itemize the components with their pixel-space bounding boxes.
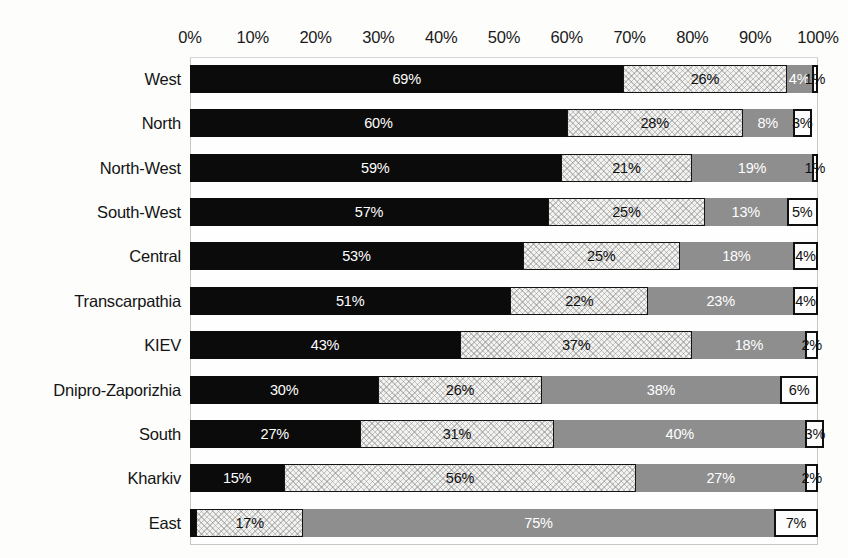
stacked-bar-chart: 0%10%20%30%40%50%60%70%80%90%100% West69… [0,0,848,558]
bar-segment-series-1[interactable]: 51% [190,287,510,315]
segment-value-label: 17% [235,515,263,531]
bar-segment-series-2[interactable]: 26% [623,65,786,93]
bar-segment-series-3[interactable]: 18% [680,242,793,270]
bar-segment-series-4[interactable]: 5% [787,198,818,226]
bar-segment-series-2[interactable]: 37% [460,331,692,359]
category-label: Kharkiv [127,456,190,500]
bar-segment-series-3[interactable]: 40% [554,420,805,448]
bar-segment-series-4[interactable]: 3% [805,420,824,448]
segment-value-label: 51% [336,293,364,309]
bar-segment-series-2[interactable]: 25% [548,198,705,226]
bar-segment-series-1[interactable]: 30% [190,376,378,404]
bar-segment-series-1[interactable]: 53% [190,242,523,270]
segment-value-label: 26% [446,382,474,398]
bar-segment-series-1[interactable]: 43% [190,331,460,359]
segment-value-label: 4% [795,293,816,309]
bar-segment-series-4[interactable]: 4% [793,242,818,270]
segment-value-label: 2% [801,470,822,486]
bar-segment-series-4[interactable]: 6% [780,376,818,404]
bar-segment-series-3[interactable]: 75% [303,509,774,537]
segment-value-label: 60% [364,115,392,131]
bar-segment-series-2[interactable]: 25% [523,242,680,270]
segment-value-label: 25% [612,204,640,220]
chart-row: Dnipro-Zaporizhia30%26%38%6% [0,368,848,412]
chart-row: North60%28%8%3% [0,101,848,145]
x-tick-80: 80% [676,28,708,47]
segment-value-label: 56% [446,470,474,486]
bar-segment-series-1[interactable]: 27% [190,420,360,448]
x-tick-50: 50% [488,28,520,47]
stacked-bar[interactable]: 27%31%40%3% [190,420,818,448]
x-tick-0: 0% [178,28,201,47]
bar-segment-series-3[interactable]: 19% [692,154,811,182]
stacked-bar[interactable]: 69%26%4%1% [190,65,818,93]
bar-segment-series-3[interactable]: 23% [648,287,792,315]
bar-segment-series-2[interactable]: 17% [196,509,303,537]
bar-segment-series-2[interactable]: 56% [284,464,636,492]
segment-value-label: 27% [706,470,734,486]
stacked-bar[interactable]: 59%21%19%1% [190,154,818,182]
segment-value-label: 26% [691,71,719,87]
bar-segment-series-3[interactable]: 13% [705,198,787,226]
chart-rows: West69%26%4%1%North60%28%8%3%North-West5… [0,57,848,545]
bar-segment-series-4[interactable]: 4% [793,287,818,315]
x-tick-70: 70% [613,28,645,47]
segment-value-label: 6% [789,382,810,398]
segment-value-label: 4% [789,71,810,87]
x-tick-20: 20% [299,28,331,47]
stacked-bar[interactable]: 15%56%27%2% [190,464,818,492]
category-label: South-West [97,190,190,234]
segment-value-label: 57% [355,204,383,220]
bar-segment-series-1[interactable]: 15% [190,464,284,492]
x-tick-60: 60% [551,28,583,47]
x-tick-100: 100% [797,28,838,47]
bar-segment-series-1[interactable]: 60% [190,109,567,137]
stacked-bar[interactable]: 51%22%23%4% [190,287,818,315]
category-label: East [149,501,190,545]
segment-value-label: 43% [311,337,339,353]
chart-row: North-West59%21%19%1% [0,146,848,190]
bar-segment-series-2[interactable]: 26% [378,376,541,404]
category-label: North [142,101,190,145]
bar-segment-series-1[interactable]: 69% [190,65,623,93]
segment-value-label: 53% [342,248,370,264]
segment-value-label: 3% [805,426,826,442]
bar-segment-series-2[interactable]: 21% [561,154,693,182]
chart-row: Transcarpathia51%22%23%4% [0,279,848,323]
bar-segment-series-4[interactable]: 3% [793,109,812,137]
bar-segment-series-2[interactable]: 22% [510,287,648,315]
segment-value-label: 3% [792,115,813,131]
segment-value-label: 21% [612,160,640,176]
category-label: West [145,57,191,101]
segment-value-label: 59% [361,160,389,176]
category-label: Dnipro-Zaporizhia [53,368,190,412]
segment-value-label: 23% [706,293,734,309]
bar-segment-series-3[interactable]: 18% [692,331,805,359]
stacked-bar[interactable]: 57%25%13%5% [190,198,818,226]
bar-segment-series-3[interactable]: 38% [542,376,781,404]
segment-value-label: 22% [565,293,593,309]
bar-segment-series-3[interactable]: 4% [787,65,812,93]
stacked-bar[interactable]: 30%26%38%6% [190,376,818,404]
x-tick-30: 30% [362,28,394,47]
bar-segment-series-4[interactable]: 1% [812,65,818,93]
bar-segment-series-2[interactable]: 31% [360,420,555,448]
bar-segment-series-2[interactable]: 28% [567,109,743,137]
bar-segment-series-3[interactable]: 27% [636,464,806,492]
stacked-bar[interactable]: 43%37%18%2% [190,331,818,359]
stacked-bar[interactable]: 53%25%18%4% [190,242,818,270]
chart-row: West69%26%4%1% [0,57,848,101]
bar-segment-series-4[interactable]: 2% [805,331,818,359]
bar-segment-series-4[interactable]: 2% [805,464,818,492]
bar-segment-series-3[interactable]: 8% [743,109,793,137]
stacked-bar[interactable]: 60%28%8%3% [190,109,818,137]
bar-segment-series-1[interactable]: 59% [190,154,561,182]
bar-segment-series-4[interactable]: 1% [812,154,818,182]
segment-value-label: 30% [270,382,298,398]
bar-segment-series-1[interactable]: 57% [190,198,548,226]
stacked-bar[interactable]: 17%75%7% [190,509,818,537]
category-label: South [139,412,190,456]
category-label: North-West [100,146,190,190]
bar-segment-series-4[interactable]: 7% [774,509,818,537]
chart-row: South27%31%40%3% [0,412,848,456]
